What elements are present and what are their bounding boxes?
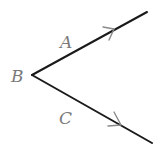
ray-ba (32, 12, 147, 75)
label-a: A (58, 32, 72, 52)
label-c: C (59, 108, 72, 128)
label-b: B (10, 66, 24, 86)
angle-diagram: A B C (0, 0, 167, 157)
ray-bc (32, 75, 152, 143)
